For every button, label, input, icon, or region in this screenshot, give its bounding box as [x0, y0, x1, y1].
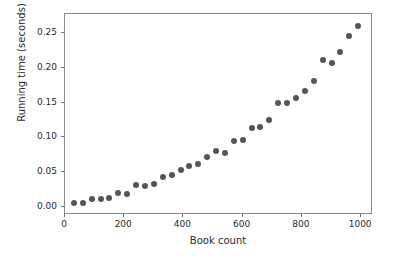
- data-point: [186, 163, 192, 169]
- data-point: [160, 174, 166, 180]
- data-point: [115, 190, 121, 196]
- x-axis-label: Book count: [64, 235, 372, 246]
- data-point: [266, 117, 272, 123]
- y-tick-mark: [61, 136, 64, 137]
- y-tick-label: 0.25: [37, 27, 57, 37]
- x-tick-label: 1000: [349, 219, 372, 229]
- data-point: [195, 161, 201, 167]
- y-axis-label: Running time (seconds): [16, 0, 27, 143]
- y-tick-mark: [61, 171, 64, 172]
- data-point: [311, 78, 317, 84]
- plot-axes-frame: [64, 13, 372, 214]
- data-point: [249, 125, 255, 131]
- y-tick-label: 0.15: [37, 97, 57, 107]
- data-point: [275, 100, 281, 106]
- data-point: [204, 154, 210, 160]
- data-point: [169, 172, 175, 178]
- data-point: [257, 124, 263, 130]
- y-tick-label: 0.00: [37, 201, 57, 211]
- x-tick-mark: [242, 214, 243, 217]
- data-point: [213, 148, 219, 154]
- x-tick-mark: [301, 214, 302, 217]
- data-point: [71, 200, 77, 206]
- x-tick-label: 600: [233, 219, 250, 229]
- data-point: [106, 195, 112, 201]
- data-point: [337, 49, 343, 55]
- y-tick-mark: [61, 206, 64, 207]
- data-point: [142, 183, 148, 189]
- data-point: [320, 57, 326, 63]
- data-point: [178, 167, 184, 173]
- data-point: [231, 138, 237, 144]
- data-point: [293, 95, 299, 101]
- data-point: [346, 33, 352, 39]
- x-tick-mark: [123, 214, 124, 217]
- data-point: [222, 150, 228, 156]
- data-point: [302, 88, 308, 94]
- x-tick-mark: [64, 214, 65, 217]
- y-tick-label: 0.20: [37, 62, 57, 72]
- y-tick-mark: [61, 67, 64, 68]
- data-point: [89, 196, 95, 202]
- y-tick-label: 0.05: [37, 166, 57, 176]
- x-tick-mark: [360, 214, 361, 217]
- data-point: [124, 191, 130, 197]
- data-point: [329, 60, 335, 66]
- x-tick-mark: [182, 214, 183, 217]
- data-point: [240, 137, 246, 143]
- data-point: [98, 196, 104, 202]
- scatter-plot-figure: Book count Running time (seconds) 020040…: [0, 0, 395, 262]
- scatter-points-layer: [65, 14, 371, 213]
- data-point: [80, 200, 86, 206]
- x-tick-label: 200: [115, 219, 132, 229]
- x-tick-label: 800: [292, 219, 309, 229]
- data-point: [151, 181, 157, 187]
- data-point: [355, 23, 361, 29]
- y-tick-mark: [61, 102, 64, 103]
- x-tick-label: 0: [61, 219, 67, 229]
- y-tick-label: 0.10: [37, 131, 57, 141]
- y-tick-mark: [61, 32, 64, 33]
- data-point: [284, 100, 290, 106]
- data-point: [133, 182, 139, 188]
- x-tick-label: 400: [174, 219, 191, 229]
